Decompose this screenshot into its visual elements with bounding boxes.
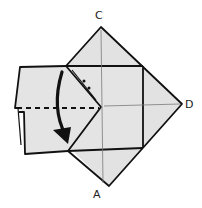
label-c: C: [95, 9, 103, 22]
origami-diagram: C D A: [0, 0, 202, 208]
pleat-dot: [88, 87, 91, 90]
label-a: A: [93, 188, 101, 201]
pleat-dot: [83, 80, 86, 83]
flap-inner-edge: [18, 108, 21, 145]
label-d: D: [185, 98, 193, 111]
